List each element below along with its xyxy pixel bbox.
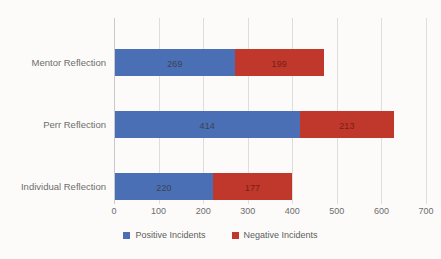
legend-swatch-icon [232,232,239,239]
value-axis-tick: 600 [374,206,389,216]
bar-row[interactable]: 414213 [115,111,394,138]
chart-legend: Positive IncidentsNegative Incidents [0,230,441,240]
value-axis-tick: 100 [151,206,166,216]
value-axis: 0100200300400500600700 [114,206,426,222]
value-axis-tick: 300 [240,206,255,216]
legend-item[interactable]: Negative Incidents [232,230,318,240]
legend-label: Positive Incidents [135,230,205,240]
bar-segment-positive[interactable]: 269 [115,49,235,76]
bar-value-label: 199 [271,58,287,68]
value-axis-tick: 0 [111,206,116,216]
gridline [426,18,427,204]
category-axis-label: Mentor Reflection [0,57,106,68]
legend-label: Negative Incidents [244,230,318,240]
bar-segment-positive[interactable]: 414 [115,111,300,138]
legend-item[interactable]: Positive Incidents [123,230,205,240]
bar-segment-negative[interactable]: 213 [300,111,395,138]
bar-row[interactable]: 269199 [115,49,324,76]
bar-value-label: 213 [339,120,355,130]
value-axis-tick: 200 [196,206,211,216]
bar-value-label: 177 [245,182,261,192]
bar-value-label: 414 [199,120,215,130]
category-axis-label: Perr Reflection [0,119,106,130]
plot-area: 269199414213220177 [114,18,426,204]
bar-series-group: 269199414213220177 [114,18,426,204]
value-axis-tick: 400 [285,206,300,216]
bar-segment-positive[interactable]: 220 [115,173,213,200]
value-axis-tick: 500 [329,206,344,216]
legend-swatch-icon [123,232,130,239]
bar-value-label: 269 [167,58,183,68]
bar-value-label: 220 [156,182,172,192]
value-axis-tick: 700 [418,206,433,216]
stacked-bar-chart: Mentor ReflectionPerr ReflectionIndividu… [0,0,441,259]
bar-segment-negative[interactable]: 177 [213,173,292,200]
bar-segment-negative[interactable]: 199 [235,49,324,76]
bar-row[interactable]: 220177 [115,173,292,200]
category-axis-label: Individual Reflection [0,181,106,192]
